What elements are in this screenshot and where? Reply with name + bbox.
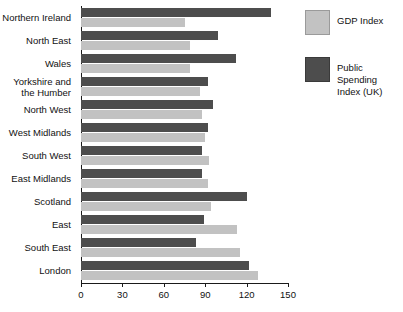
category-label: North West <box>0 98 74 121</box>
bar-group <box>81 75 288 98</box>
bar-gdp <box>81 110 202 119</box>
legend-item: GDP Index <box>305 10 403 35</box>
bar-group <box>81 190 288 213</box>
bar-gdp <box>81 202 211 211</box>
bar-group <box>81 6 288 29</box>
x-tick-label: 120 <box>239 289 255 300</box>
bar-gdp <box>81 87 200 96</box>
legend-swatch <box>305 57 330 82</box>
category-label: East Midlands <box>0 167 74 190</box>
bar-public-spending <box>81 215 204 224</box>
category-label: Northern Ireland <box>0 6 74 29</box>
bar-public-spending <box>81 54 236 63</box>
legend: GDP IndexPublic Spending Index (UK) <box>305 10 403 120</box>
x-tick-label: 150 <box>280 289 296 300</box>
category-label: Scotland <box>0 190 74 213</box>
bar-group <box>81 144 288 167</box>
bar-public-spending <box>81 146 202 155</box>
bar-public-spending <box>81 192 247 201</box>
legend-item: Public Spending Index (UK) <box>305 57 403 98</box>
bar-public-spending <box>81 123 208 132</box>
x-tick-label: 30 <box>117 289 128 300</box>
bar-gdp <box>81 133 205 142</box>
x-axis-ticks: 0306090120150 <box>81 283 289 307</box>
chart-title <box>0 0 403 4</box>
category-label: East <box>0 213 74 236</box>
x-tick-label: 90 <box>200 289 211 300</box>
bar-public-spending <box>81 31 218 40</box>
bar-gdp <box>81 271 258 280</box>
bar-rows <box>81 6 288 282</box>
legend-swatch <box>305 10 330 35</box>
bar-gdp <box>81 64 190 73</box>
x-tick <box>247 283 248 287</box>
bar-public-spending <box>81 77 208 86</box>
category-label: South West <box>0 144 74 167</box>
bar-gdp <box>81 225 237 234</box>
bar-group <box>81 121 288 144</box>
bar-group <box>81 29 288 52</box>
bar-gdp <box>81 179 208 188</box>
bar-gdp <box>81 41 190 50</box>
category-label: South East <box>0 236 74 259</box>
bar-gdp <box>81 248 240 257</box>
x-tick <box>81 283 82 287</box>
bar-chart: Northern IrelandNorth EastWalesYorkshire… <box>0 0 403 312</box>
bar-public-spending <box>81 8 271 17</box>
category-label: Yorkshire and the Humber <box>0 75 74 98</box>
bar-public-spending <box>81 261 249 270</box>
x-tick <box>122 283 123 287</box>
category-label: North East <box>0 29 74 52</box>
bar-gdp <box>81 18 185 27</box>
category-label: Wales <box>0 52 74 75</box>
bar-group <box>81 236 288 259</box>
bar-gdp <box>81 156 209 165</box>
bar-public-spending <box>81 238 196 247</box>
x-tick-label: 0 <box>78 289 83 300</box>
category-label: West Midlands <box>0 121 74 144</box>
x-tick <box>164 283 165 287</box>
bar-group <box>81 98 288 121</box>
category-axis-labels: Northern IrelandNorth EastWalesYorkshire… <box>0 6 74 282</box>
bar-public-spending <box>81 100 213 109</box>
x-tick <box>205 283 206 287</box>
bar-public-spending <box>81 169 202 178</box>
x-tick-label: 60 <box>159 289 170 300</box>
category-label: London <box>0 259 74 282</box>
legend-label: GDP Index <box>337 10 383 27</box>
bar-group <box>81 52 288 75</box>
bar-group <box>81 213 288 236</box>
x-tick <box>288 283 289 287</box>
plot-area <box>81 6 288 282</box>
bar-group <box>81 259 288 282</box>
bar-group <box>81 167 288 190</box>
legend-label: Public Spending Index (UK) <box>337 57 403 98</box>
